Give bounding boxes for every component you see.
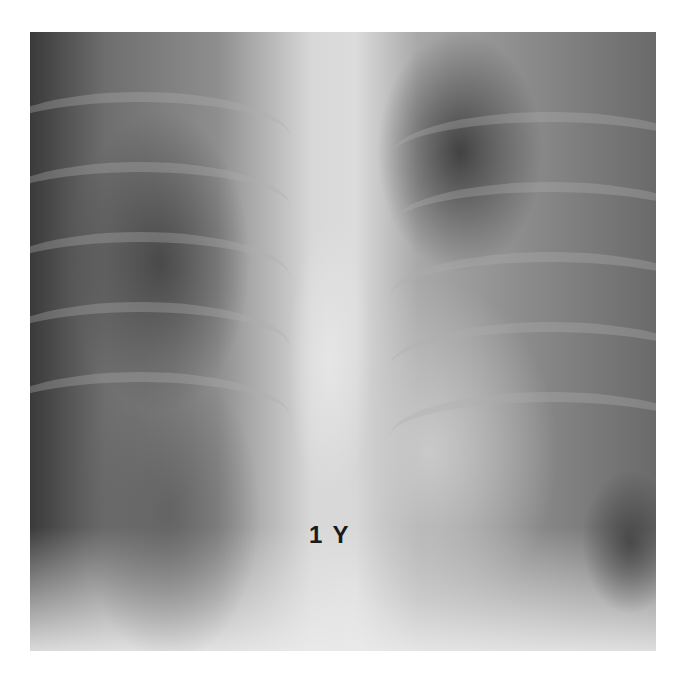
rib-shadow [30,372,290,462]
age-label: 1 Y [309,521,351,549]
rib-shadow [390,392,656,482]
chest-xray-image: 1 Y [30,32,656,651]
